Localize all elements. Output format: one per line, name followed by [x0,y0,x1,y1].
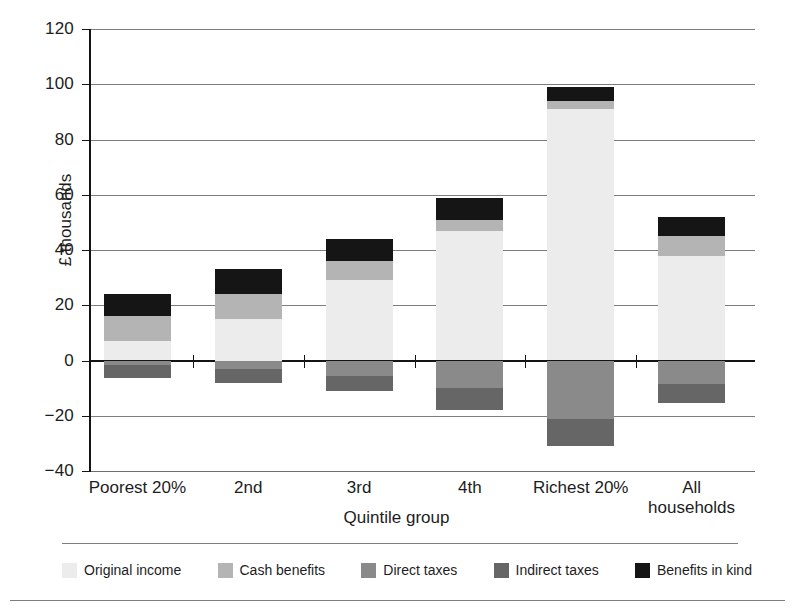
bar-segment [658,217,725,236]
y-axis-tick-label: −40 [0,462,74,479]
bar-group [658,29,725,471]
bar-segment [547,101,614,109]
bar-segment [658,384,725,403]
chart-figure: 120100806040200−20−40 £ thousands Poores… [0,0,793,614]
bar-segment [658,361,725,384]
legend-swatch-icon [62,563,77,578]
y-axis-title: £ thousands [56,140,76,300]
bar-segment [215,319,282,360]
gridline [90,29,755,30]
legend-swatch-icon [218,563,233,578]
y-axis-tick [82,140,91,141]
y-axis-tick-label: −20 [0,407,74,424]
bar-segment [104,294,171,316]
y-axis-tick-label: 120 [0,20,74,37]
bar-segment [658,256,725,361]
gridline [90,305,755,306]
y-axis-tick-label: 100 [0,75,74,92]
legend-item: Indirect taxes [494,562,599,578]
bar-group [326,29,393,471]
bar-segment [658,236,725,255]
gridline [90,250,755,251]
bar-segment [547,419,614,447]
y-axis-tick [82,361,91,362]
bar-group [547,29,614,471]
bar-segment [436,220,503,231]
bar-group [104,29,171,471]
legend-label: Benefits in kind [657,562,752,578]
legend-top-rule [62,543,738,544]
legend-label: Cash benefits [240,562,326,578]
bar-segment [104,341,171,360]
bar-segment [436,231,503,361]
y-axis-tick-label: 0 [0,352,74,369]
gridline [90,195,755,196]
y-axis-tick [82,416,91,417]
x-axis-tick [304,355,305,368]
plot-area [90,29,755,471]
footer-rule [10,600,785,601]
bar-group [436,29,503,471]
bar-segment [436,361,503,389]
x-axis-title: Quintile group [0,508,793,528]
x-axis-tick [636,355,637,368]
bar-segment [436,198,503,220]
gridline [90,471,755,472]
bar-segment [547,87,614,101]
bar-segment [436,388,503,410]
gridline [90,140,755,141]
y-axis-tick [82,471,91,472]
bar-segment [547,361,614,419]
bar-segment [326,239,393,261]
legend-item: Direct taxes [361,562,457,578]
bar-segment [104,316,171,341]
gridline [90,416,755,417]
legend-label: Original income [84,562,181,578]
legend-item: Original income [62,562,181,578]
y-axis-tick [82,195,91,196]
legend-item: Benefits in kind [635,562,752,578]
legend-swatch-icon [361,563,376,578]
bar-segment [326,376,393,391]
bar-segment [215,361,282,369]
y-axis-tick [82,305,91,306]
bar-segment [215,269,282,294]
chart-legend: Original incomeCash benefitsDirect taxes… [62,557,752,583]
legend-swatch-icon [494,563,509,578]
y-axis-tick [82,250,91,251]
legend-label: Direct taxes [383,562,457,578]
bar-segment [326,280,393,360]
zero-line [90,360,755,362]
legend-swatch-icon [635,563,650,578]
legend-label: Indirect taxes [516,562,599,578]
y-axis-tick [82,29,91,30]
y-axis-tick [82,84,91,85]
x-axis-tick [525,355,526,368]
bar-group [215,29,282,471]
bar-segment [215,369,282,383]
legend-item: Cash benefits [218,562,326,578]
bar-segment [104,365,171,379]
bar-segment [326,361,393,376]
x-axis-tick [415,355,416,368]
bar-segment [326,261,393,280]
gridline [90,84,755,85]
x-axis-tick [193,355,194,368]
bar-segment [547,109,614,360]
bar-segment [215,294,282,319]
